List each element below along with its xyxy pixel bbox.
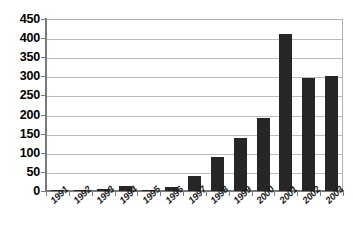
bar-chart: 050100150200250300350400450 199119921993… [0, 0, 353, 236]
bar [325, 76, 338, 191]
y-axis-tick-label: 50 [0, 166, 40, 179]
y-axis-tick-label: 100 [0, 147, 40, 160]
x-axis-tick [46, 192, 47, 196]
bar [302, 78, 315, 191]
y-axis-tick-label: 400 [0, 32, 40, 45]
bar [257, 118, 270, 191]
y-axis-tick-label: 150 [0, 128, 40, 141]
y-axis-tick-label: 0 [0, 185, 40, 198]
y-axis-tick-label: 200 [0, 109, 40, 122]
y-axis-tick-label: 300 [0, 70, 40, 83]
bar [279, 34, 292, 191]
x-axis-tick [69, 192, 70, 196]
y-axis-tick-label: 450 [0, 13, 40, 26]
y-axis-tick-label: 250 [0, 89, 40, 102]
y-axis-tick-label: 350 [0, 51, 40, 64]
bars-group [46, 19, 343, 191]
